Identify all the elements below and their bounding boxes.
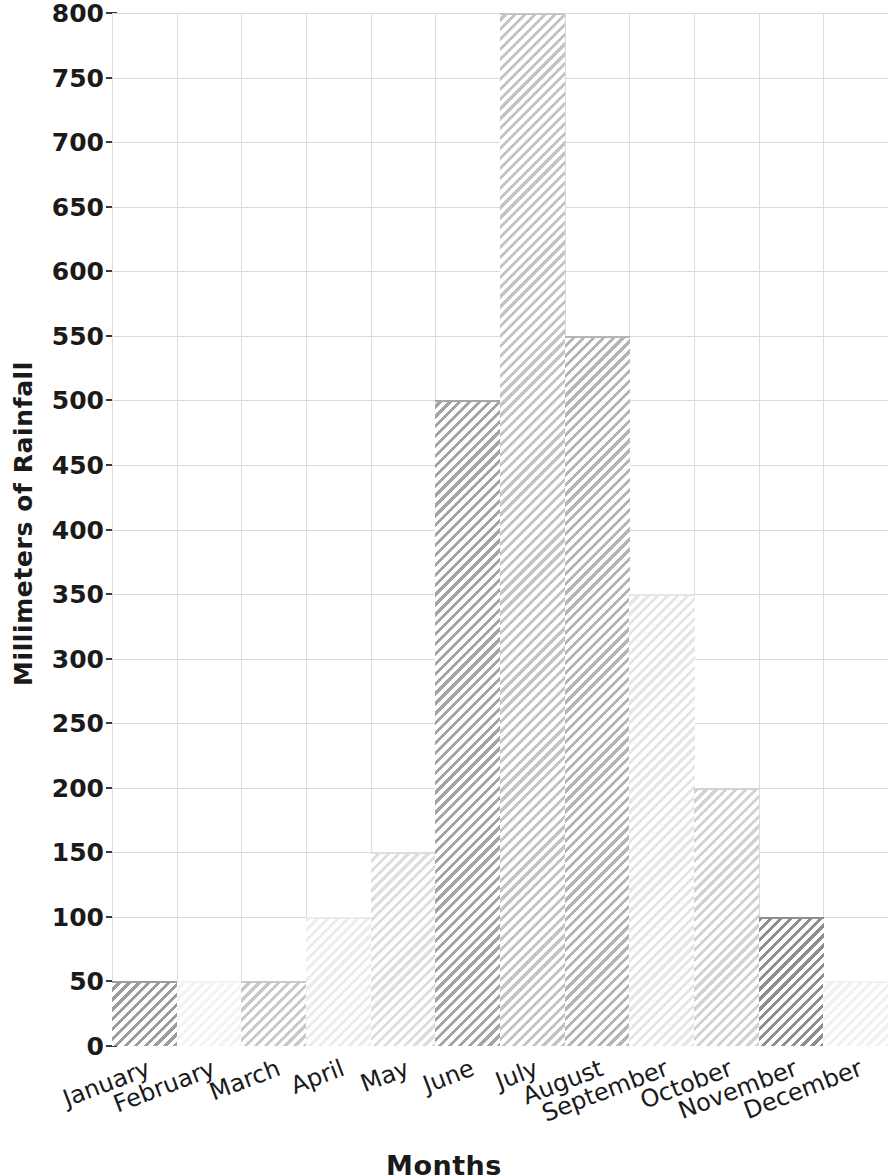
rainfall-bar-chart: Millimeters of Rainfall 0501001502002503… — [0, 0, 888, 1176]
y-tick-label: 500 — [0, 388, 104, 413]
bar-march — [241, 981, 306, 1046]
y-tick-label: 800 — [0, 1, 104, 26]
bar-december — [823, 981, 888, 1046]
y-tick-label: 100 — [0, 904, 104, 929]
vertical-gridline — [112, 13, 113, 1046]
y-tick-label: 450 — [0, 452, 104, 477]
bar-june — [435, 400, 500, 1046]
bar-october — [694, 788, 759, 1046]
bar-november — [759, 917, 824, 1046]
y-tick-label: 400 — [0, 517, 104, 542]
plot-area — [112, 13, 888, 1046]
bar-february — [177, 981, 242, 1046]
bar-april — [306, 917, 371, 1046]
y-tick-label: 650 — [0, 194, 104, 219]
y-tick-label: 300 — [0, 646, 104, 671]
y-tick-label: 600 — [0, 259, 104, 284]
vertical-gridline — [177, 13, 178, 1046]
y-tick-label: 250 — [0, 711, 104, 736]
bar-july — [500, 13, 565, 1046]
vertical-gridline — [306, 13, 307, 1046]
x-axis-title: Months — [0, 1150, 888, 1176]
vertical-gridline — [241, 13, 242, 1046]
bar-august — [565, 336, 630, 1046]
y-tick-label: 350 — [0, 582, 104, 607]
vertical-gridline — [823, 13, 824, 1046]
bar-may — [371, 852, 436, 1046]
y-tick-label: 750 — [0, 65, 104, 90]
y-tick-label: 150 — [0, 840, 104, 865]
y-tick-label: 700 — [0, 130, 104, 155]
y-tick-label: 50 — [0, 969, 104, 994]
y-axis-ticks: 0501001502002503003504004505005506006507… — [0, 0, 104, 1176]
y-tick-label: 200 — [0, 775, 104, 800]
bar-january — [112, 981, 177, 1046]
bar-september — [629, 594, 694, 1046]
y-tick-label: 550 — [0, 323, 104, 348]
